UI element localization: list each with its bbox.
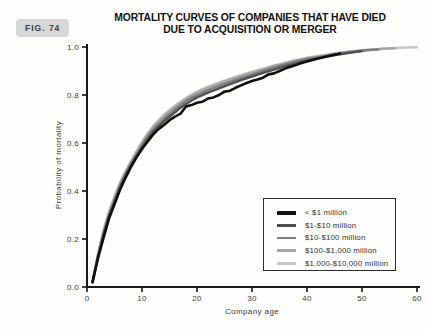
figure-panel: FIG. 74 MORTALITY CURVES OF COMPANIES TH… [0, 0, 427, 331]
legend-item: $100-$1,000 million [277, 245, 395, 257]
legend-item: $1,000-$10,000 million [277, 257, 395, 269]
mortality-chart-plot: 01020304050600.00.20.40.60.81.0 [0, 0, 427, 331]
legend-item-label: < $1 million [305, 208, 347, 217]
legend-item: $1-$10 million [277, 220, 395, 232]
y-tick-label: 0.0 [67, 283, 79, 292]
x-tick-label: 40 [302, 294, 312, 303]
x-tick-label: 10 [137, 294, 147, 303]
x-tick-label: 60 [412, 294, 422, 303]
y-tick-label: 0.8 [67, 91, 79, 100]
x-tick-label: 0 [85, 294, 90, 303]
legend-line-swatch [277, 262, 296, 265]
legend-item-label: $100-$1,000 million [305, 246, 377, 255]
y-tick-label: 1.0 [67, 43, 79, 52]
legend-line-swatch [277, 237, 296, 240]
x-tick-label: 50 [357, 294, 367, 303]
y-tick-label: 0.6 [67, 139, 79, 148]
x-tick-label: 20 [192, 294, 202, 303]
chart-legend: < $1 million $1-$10 million $10-$100 mil… [263, 198, 396, 271]
legend-item-label: $1,000-$10,000 million [305, 259, 388, 268]
legend-item: < $1 million [277, 207, 395, 219]
x-tick-label: 30 [247, 294, 257, 303]
y-axis-title: Probability of mortality [54, 121, 63, 209]
legend-line-swatch [277, 211, 296, 215]
legend-line-swatch [277, 249, 296, 252]
y-tick-label: 0.2 [67, 235, 79, 244]
legend-item-label: $1-$10 million [305, 221, 356, 230]
legend-line-swatch [277, 224, 296, 227]
x-axis-title: Company age [87, 307, 417, 316]
legend-item-label: $10-$100 million [305, 233, 365, 242]
legend-item: $10-$100 million [277, 232, 395, 244]
y-tick-label: 0.4 [67, 187, 79, 196]
